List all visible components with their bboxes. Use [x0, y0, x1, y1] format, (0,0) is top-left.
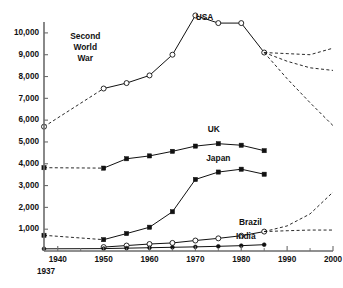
data-point: [239, 167, 243, 171]
data-point: [216, 21, 221, 26]
y-tick-label: 4,000: [19, 159, 40, 168]
data-point: [147, 154, 151, 158]
data-point: [262, 172, 266, 176]
data-point: [102, 238, 106, 242]
x-tick-label: 1970: [186, 255, 205, 264]
series-segment-dashed: [44, 235, 104, 239]
series-label-india: India: [236, 231, 256, 241]
series-segment-dashed: [44, 89, 104, 127]
line-chart: 1,0002,0003,0004,0005,0006,0007,0008,000…: [0, 0, 343, 288]
x-tick-label: 1980: [232, 255, 251, 264]
projection-brazil-low: [264, 230, 333, 232]
data-point: [193, 238, 198, 243]
series-label-uk: UK: [208, 124, 220, 134]
x-tick-label: 1960: [140, 255, 159, 264]
annotation-line: War: [78, 53, 94, 63]
series-japan: [42, 167, 266, 242]
x-tick-label: 1950: [95, 255, 114, 264]
series-label-usa: USA: [196, 12, 214, 22]
series-segment-solid: [44, 245, 264, 249]
y-tick-label: 9,000: [19, 50, 40, 59]
data-point: [170, 240, 175, 245]
x-tick-label: 1990: [278, 255, 297, 264]
data-point: [216, 244, 220, 248]
series-segment-solid: [104, 15, 265, 88]
y-tick-label: 3,000: [19, 181, 40, 190]
annotation-line: World: [73, 42, 97, 52]
chart-container: 1,0002,0003,0004,0005,0006,0007,0008,000…: [0, 0, 343, 288]
projection-usa-low: [264, 53, 333, 126]
data-point: [239, 21, 244, 26]
data-point: [124, 81, 129, 86]
projection-brazil-high: [264, 192, 333, 231]
data-point: [239, 143, 243, 147]
data-point: [216, 170, 220, 174]
data-point: [124, 231, 128, 235]
data-point: [170, 52, 175, 57]
data-point: [147, 225, 151, 229]
data-point: [102, 166, 106, 170]
series-usa: [42, 13, 267, 129]
series-segment-solid: [104, 169, 265, 239]
series-uk: [42, 142, 266, 171]
series-label-japan: Japan: [206, 153, 230, 163]
data-point: [170, 149, 174, 153]
y-tick-label: 5,000: [19, 137, 40, 146]
data-point: [262, 243, 266, 247]
data-point: [170, 210, 174, 214]
y-tick-label: 8,000: [19, 72, 40, 81]
y-tick-label: 1,000: [19, 224, 40, 233]
y-tick-label: 6,000: [19, 115, 40, 124]
y-tick-label: 7,000: [19, 94, 40, 103]
projection-usa-mid: [264, 53, 333, 71]
x-origin-label: 1937: [37, 267, 56, 276]
x-tick-label: 1940: [49, 255, 68, 264]
labels-layer: 1,0002,0003,0004,0005,0006,0007,0008,000…: [14, 12, 343, 276]
series-label-brazil: Brazil: [239, 217, 262, 227]
data-point: [101, 86, 106, 91]
y-tick-label: 2,000: [19, 203, 40, 212]
data-point: [216, 142, 220, 146]
data-point: [262, 149, 266, 153]
data-point: [193, 177, 197, 181]
data-point: [193, 144, 197, 148]
data-point: [147, 73, 152, 78]
annotation-line: Second: [70, 31, 100, 41]
annotation-second-world-war: SecondWorldWar: [70, 31, 100, 63]
data-point: [216, 236, 221, 241]
x-tick-label: 2000: [324, 255, 343, 264]
projection-usa-high: [264, 48, 333, 55]
data-point: [124, 157, 128, 161]
y-tick-label: 10,000: [14, 28, 39, 37]
